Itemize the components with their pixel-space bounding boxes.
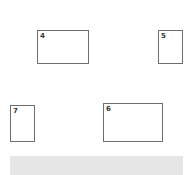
- box-label: 4: [40, 32, 45, 40]
- gray-bar: [10, 156, 183, 175]
- box-label: 7: [13, 107, 18, 115]
- box-label: 6: [106, 105, 111, 113]
- box-6: 6: [103, 103, 163, 142]
- box-5: 5: [158, 30, 183, 64]
- box-label: 5: [161, 32, 166, 40]
- box-7: 7: [10, 105, 35, 142]
- box-4: 4: [37, 30, 89, 64]
